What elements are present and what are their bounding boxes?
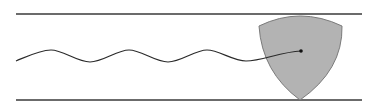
reuleaux-triangle-shape bbox=[259, 16, 342, 100]
center-point-dot bbox=[299, 49, 303, 53]
traced-wave-path bbox=[16, 50, 301, 62]
diagram-canvas bbox=[0, 0, 374, 112]
